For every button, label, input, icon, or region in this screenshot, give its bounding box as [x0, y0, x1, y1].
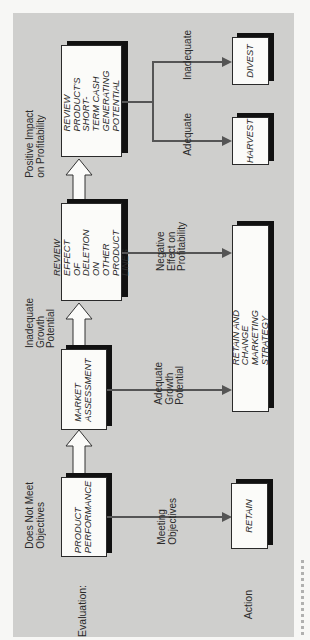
- hollow-arrow-icon: [64, 428, 94, 478]
- box-review-effect: REVIEW EFFECT OF DELETION ON OTHER PRODU…: [61, 203, 122, 301]
- box-product-performance: PRODUCT PERFORMANCE: [61, 477, 107, 557]
- box-review-cash-text: REVIEW PRODUCT'S SHORT-TERM CASH GENERAT…: [62, 71, 121, 132]
- box-divest: DIVEST: [232, 37, 269, 85]
- label-adequate-growth-potential: Adequate Growth Potential: [154, 362, 186, 405]
- box-retain-change-text: RETAIN AND CHANGE MARKETING STRATEGY: [231, 272, 270, 365]
- box-review-cash: REVIEW PRODUCT'S SHORT-TERM CASH GENERAT…: [61, 45, 122, 157]
- hollow-arrow-icon: [64, 301, 94, 349]
- label-negative-effect: Negative Effect on Profitability: [156, 222, 188, 271]
- arrowhead-icon: [222, 385, 232, 395]
- action-row-label: Action: [243, 590, 254, 619]
- hollow-arrow-icon: [64, 157, 94, 203]
- label-positive-impact: Positive Impact on Profitability: [25, 110, 46, 178]
- label-inadequate: Inadequate: [183, 30, 194, 80]
- figure-caption-partial: [301, 560, 304, 636]
- label-does-not-meet-objectives: Does Not Meet Objectives: [25, 482, 46, 549]
- arrowhead-icon: [222, 248, 232, 258]
- label-adequate: Adequate: [183, 113, 194, 156]
- box-market-assessment-text: MARKET ASSESSMENT: [74, 358, 94, 422]
- evaluation-row-label: Evaluation:: [77, 585, 88, 637]
- box-product-performance-text: PRODUCT PERFORMANCE: [74, 481, 94, 553]
- box-retain: RETAIN: [231, 483, 268, 549]
- box-divest-text: DIVEST: [246, 44, 256, 78]
- box-harvest: HARVEST: [232, 117, 269, 165]
- arrowhead-icon: [222, 57, 232, 67]
- connector-branch-vertical: [152, 61, 154, 142]
- arrowhead-icon: [222, 136, 232, 146]
- box-harvest-text: HARVEST: [246, 119, 256, 163]
- box-retain-text: RETAIN: [245, 499, 255, 532]
- label-inadequate-growth-potential: Inadequate Growth Potential: [25, 298, 57, 348]
- connector-review-cash-stem: [122, 101, 153, 103]
- box-market-assessment: MARKET ASSESSMENT: [61, 349, 107, 430]
- label-meeting-objectives: Meeting Objectives: [157, 498, 178, 545]
- box-retain-change: RETAIN AND CHANGE MARKETING STRATEGY: [232, 225, 269, 412]
- box-review-effect-text: REVIEW EFFECT OF DELETION ON OTHER PRODU…: [53, 228, 131, 276]
